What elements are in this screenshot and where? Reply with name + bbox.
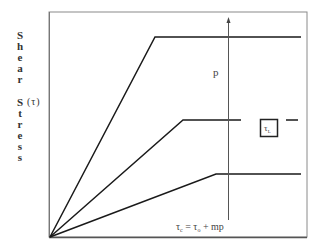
arrow-head-icon [227,17,231,23]
tau-l-label: τL [264,123,271,134]
equation: τc = τo + mp [176,221,224,233]
curve-medium-p [50,120,241,237]
pressure-label: p [213,66,219,78]
shear-stress-diagram: p τL τc = τo + mp [0,0,322,249]
